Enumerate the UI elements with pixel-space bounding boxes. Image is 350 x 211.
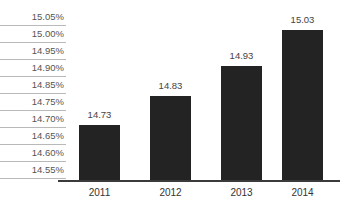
bar[interactable] <box>282 30 323 180</box>
y-axis-tick-label: 14.65% <box>0 129 66 145</box>
bar-value-label: 14.73 <box>69 109 130 121</box>
plot-area: 14.73 2011 14.83 2012 14.93 2013 15.03 2… <box>58 0 350 211</box>
x-axis-tick-label: 2014 <box>272 186 333 200</box>
y-axis-tick-label: 14.75% <box>0 95 66 111</box>
x-axis-tick-label: 2011 <box>69 186 130 200</box>
y-axis-tick-label: 14.95% <box>0 44 66 60</box>
x-axis-tick-label: 2013 <box>211 186 272 200</box>
bar[interactable] <box>79 125 120 180</box>
y-axis-tick-label: 14.70% <box>0 112 66 128</box>
bar-value-label: 14.83 <box>140 80 201 92</box>
y-axis-tick-label: 14.60% <box>0 146 66 162</box>
bar-chart: 15.05% 15.00% 14.95% 14.90% 14.85% 14.75… <box>0 0 350 211</box>
y-axis-tick-label: 14.85% <box>0 78 66 94</box>
bar[interactable] <box>221 66 262 180</box>
x-axis-line <box>58 180 340 182</box>
y-axis-tick-label: 14.55% <box>0 163 66 179</box>
bar[interactable] <box>150 96 191 180</box>
y-axis-tick-label: 14.90% <box>0 61 66 77</box>
y-axis-tick-label: 15.05% <box>0 10 66 26</box>
x-axis-tick-label: 2012 <box>140 186 201 200</box>
bar-value-label: 14.93 <box>211 50 272 62</box>
bar-value-label: 15.03 <box>272 14 333 26</box>
y-axis-tick-label: 15.00% <box>0 27 66 43</box>
